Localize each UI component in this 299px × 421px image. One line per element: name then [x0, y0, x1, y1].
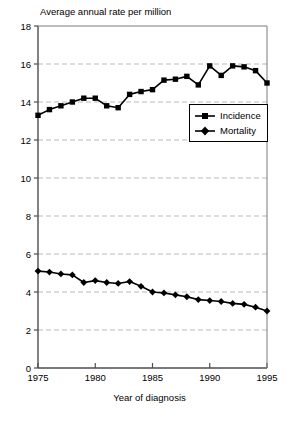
y-tick-label: 6 — [26, 249, 31, 260]
data-point-incidence — [264, 80, 269, 85]
x-axis-ticks — [38, 363, 267, 368]
data-point-mortality — [161, 290, 168, 297]
data-point-incidence — [127, 92, 132, 97]
legend-marker-square-icon — [194, 111, 216, 121]
data-point-mortality — [195, 296, 202, 303]
data-point-incidence — [184, 74, 189, 79]
legend-label-mortality: Mortality — [220, 125, 256, 136]
data-point-mortality — [46, 269, 53, 276]
data-point-incidence — [115, 105, 120, 110]
data-point-mortality — [35, 268, 42, 275]
x-tick-label: 1975 — [27, 372, 48, 383]
data-point-mortality — [103, 279, 110, 286]
x-tick-label: 1985 — [142, 372, 163, 383]
x-tick-label: 1980 — [85, 372, 106, 383]
data-point-mortality — [264, 308, 271, 315]
data-point-mortality — [241, 301, 248, 308]
y-tick-label: 4 — [26, 287, 31, 298]
y-tick-label: 2 — [26, 325, 31, 336]
data-point-incidence — [161, 77, 166, 82]
y-tick-label: 14 — [20, 97, 31, 108]
data-point-incidence — [219, 73, 224, 78]
x-axis-tick-labels: 19751980198519901995 — [27, 372, 277, 383]
chart-figure: Average annual rate per million 02468101… — [0, 0, 299, 421]
data-point-mortality — [58, 271, 65, 278]
data-point-incidence — [241, 64, 246, 69]
x-tick-label: 1990 — [199, 372, 220, 383]
data-point-incidence — [70, 99, 75, 104]
data-point-mortality — [115, 280, 122, 287]
legend-item-incidence[interactable]: Incidence — [194, 108, 261, 123]
legend-marker-diamond-icon — [194, 126, 216, 136]
data-point-mortality — [229, 300, 236, 307]
x-tick-label: 1995 — [256, 372, 277, 383]
data-point-mortality — [218, 298, 225, 305]
data-point-incidence — [173, 77, 178, 82]
data-point-mortality — [183, 293, 190, 300]
y-tick-label: 12 — [20, 135, 31, 146]
data-point-mortality — [138, 283, 145, 290]
data-point-incidence — [58, 103, 63, 108]
data-point-incidence — [35, 113, 40, 118]
axis-lines — [38, 26, 267, 368]
data-point-incidence — [230, 63, 235, 68]
data-point-incidence — [253, 68, 258, 73]
y-axis-tick-labels: 024681012141618 — [20, 21, 31, 374]
data-point-incidence — [150, 87, 155, 92]
data-point-mortality — [149, 289, 156, 296]
y-tick-label: 18 — [20, 21, 31, 32]
chart-plot-area: 024681012141618 19751980198519901995 — [0, 0, 299, 421]
data-point-incidence — [93, 96, 98, 101]
data-point-mortality — [252, 304, 259, 311]
x-axis-label: Year of diagnosis — [0, 392, 299, 403]
legend-label-incidence: Incidence — [220, 110, 261, 121]
data-series-layer — [35, 63, 271, 314]
y-tick-label: 10 — [20, 173, 31, 184]
legend-item-mortality[interactable]: Mortality — [194, 123, 261, 138]
y-tick-label: 16 — [20, 59, 31, 70]
data-point-incidence — [207, 63, 212, 68]
data-point-incidence — [138, 89, 143, 94]
data-point-incidence — [104, 103, 109, 108]
data-point-incidence — [196, 82, 201, 87]
data-point-incidence — [47, 107, 52, 112]
chart-legend: Incidence Mortality — [189, 104, 268, 142]
data-point-mortality — [126, 278, 133, 285]
data-point-mortality — [206, 297, 213, 304]
data-point-incidence — [81, 96, 86, 101]
y-tick-label: 8 — [26, 211, 31, 222]
data-point-mortality — [92, 277, 99, 284]
